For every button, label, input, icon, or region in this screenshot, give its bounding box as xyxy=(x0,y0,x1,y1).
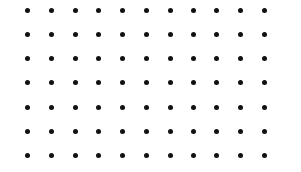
grid-dot xyxy=(214,80,219,85)
grid-dot xyxy=(120,32,125,37)
grid-dot xyxy=(238,56,243,61)
grid-dot xyxy=(25,153,30,158)
grid-dot xyxy=(191,153,196,158)
grid-dot xyxy=(262,8,267,13)
grid-dot xyxy=(49,80,54,85)
grid-dot xyxy=(120,56,125,61)
grid-dot xyxy=(144,32,149,37)
grid-dot xyxy=(214,153,219,158)
grid-dot xyxy=(144,80,149,85)
grid-dot xyxy=(25,80,30,85)
grid-dot xyxy=(191,129,196,134)
grid-dot xyxy=(73,80,78,85)
grid-dot xyxy=(168,105,173,110)
grid-dot xyxy=(191,56,196,61)
grid-dot xyxy=(144,129,149,134)
grid-dot xyxy=(168,80,173,85)
dot-grid xyxy=(0,0,301,172)
grid-dot xyxy=(168,129,173,134)
grid-dot xyxy=(25,105,30,110)
grid-dot xyxy=(238,105,243,110)
grid-dot xyxy=(262,153,267,158)
grid-dot xyxy=(191,105,196,110)
grid-dot xyxy=(25,8,30,13)
grid-dot xyxy=(262,80,267,85)
grid-dot xyxy=(168,153,173,158)
grid-dot xyxy=(238,32,243,37)
grid-dot xyxy=(73,105,78,110)
grid-dot xyxy=(238,129,243,134)
grid-dot xyxy=(96,129,101,134)
grid-dot xyxy=(144,105,149,110)
grid-dot xyxy=(144,56,149,61)
grid-dot xyxy=(25,129,30,134)
grid-dot xyxy=(49,105,54,110)
grid-dot xyxy=(96,32,101,37)
grid-dot xyxy=(168,56,173,61)
grid-dot xyxy=(238,80,243,85)
grid-dot xyxy=(262,129,267,134)
grid-dot xyxy=(49,56,54,61)
grid-dot xyxy=(238,8,243,13)
grid-dot xyxy=(120,105,125,110)
grid-dot xyxy=(214,129,219,134)
grid-dot xyxy=(96,80,101,85)
grid-dot xyxy=(191,8,196,13)
grid-dot xyxy=(120,80,125,85)
grid-dot xyxy=(191,32,196,37)
grid-dot xyxy=(238,153,243,158)
grid-dot xyxy=(96,56,101,61)
grid-dot xyxy=(73,56,78,61)
grid-dot xyxy=(214,105,219,110)
grid-dot xyxy=(25,32,30,37)
grid-dot xyxy=(214,32,219,37)
grid-dot xyxy=(144,8,149,13)
grid-dot xyxy=(262,32,267,37)
grid-dot xyxy=(25,56,30,61)
grid-dot xyxy=(120,153,125,158)
grid-dot xyxy=(96,8,101,13)
grid-dot xyxy=(49,8,54,13)
grid-dot xyxy=(168,32,173,37)
grid-dot xyxy=(120,8,125,13)
grid-dot xyxy=(96,153,101,158)
grid-dot xyxy=(120,129,125,134)
grid-dot xyxy=(262,56,267,61)
grid-dot xyxy=(191,80,196,85)
grid-dot xyxy=(144,153,149,158)
grid-dot xyxy=(73,8,78,13)
grid-dot xyxy=(49,129,54,134)
grid-dot xyxy=(262,105,267,110)
grid-dot xyxy=(96,105,101,110)
grid-dot xyxy=(73,153,78,158)
grid-dot xyxy=(214,8,219,13)
grid-dot xyxy=(168,8,173,13)
grid-dot xyxy=(49,32,54,37)
grid-dot xyxy=(214,56,219,61)
grid-dot xyxy=(49,153,54,158)
grid-dot xyxy=(73,129,78,134)
grid-dot xyxy=(73,32,78,37)
